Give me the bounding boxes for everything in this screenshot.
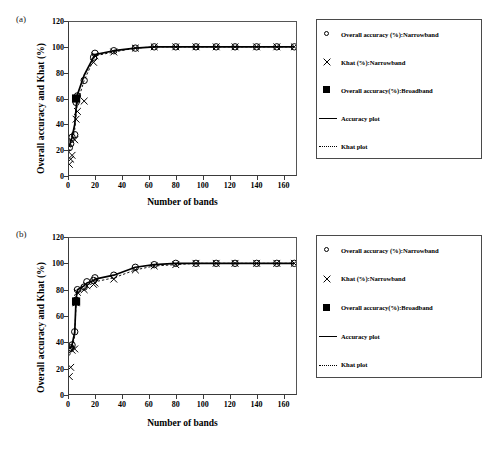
panel-a-y-tick: 60 [36, 94, 64, 103]
panel-a-legend-label: Khat plot [341, 143, 367, 150]
panel-b-x-tick: 40 [109, 400, 135, 409]
y-axis-label-b: Overall accuracy and Khat (%) [36, 262, 46, 393]
panel-a-x-tick-mark [284, 176, 285, 180]
cross-icon [323, 275, 331, 283]
panel-a-x-tick-mark [257, 176, 258, 180]
panel-b-x-tick: 20 [82, 400, 108, 409]
panel-a-x-tick-mark [149, 176, 150, 180]
dotted-line-icon [319, 365, 337, 366]
dotted-line-icon [319, 146, 337, 147]
panel-b-x-tick-mark [176, 395, 177, 399]
legend-key-filled-square [317, 81, 341, 99]
panel-b-x-tick-mark [95, 395, 96, 399]
panel-b-x-tick-mark [149, 395, 150, 399]
legend-key-open-circle [317, 241, 341, 259]
chart-panel-a: (a) Overall accuracy and Khat (%) 020406… [0, 0, 491, 228]
panel-a-x-tick-mark [68, 176, 69, 180]
plot-area-a [68, 21, 297, 176]
panel-b-legend-item[interactable]: Overall accuracy(%):Broadband [317, 299, 481, 317]
panel-a-legend-label: Accuracy plot [341, 115, 380, 122]
filled-square-icon [323, 86, 330, 93]
panel-b-x-tick-mark [68, 395, 69, 399]
panel-a-legend-item[interactable]: Khat plot [317, 137, 481, 155]
panel-a-legend-item[interactable]: Overall accuracy (%):Narrowband [317, 25, 481, 43]
panel-label-a: (a) [16, 14, 26, 24]
legend-key-filled-square [317, 299, 341, 317]
panel-b-x-tick-mark [122, 395, 123, 399]
solid-line-icon [319, 118, 337, 120]
panel-b-y-tick: 60 [36, 312, 64, 321]
x-axis-label-a: Number of bands [68, 197, 297, 207]
panel-b-x-tick: 120 [217, 400, 243, 409]
panel-b-x-tick: 140 [244, 400, 270, 409]
legend-key-dotted-line [317, 356, 341, 374]
panel-a-x-tick-mark [203, 176, 204, 180]
plot-area-b [68, 237, 297, 395]
plot-frame-a [68, 21, 297, 176]
filled-square-icon [323, 304, 330, 311]
panel-a-x-tick: 100 [190, 181, 216, 190]
panel-a-legend-label: Overall accuracy (%):Narrowband [341, 31, 439, 38]
panel-a-x-tick-mark [230, 176, 231, 180]
legend-key-dotted-line [317, 137, 341, 155]
panel-b-y-tick: 20 [36, 364, 64, 373]
panel-b-legend-item[interactable]: Khat plot [317, 356, 481, 374]
panel-a-y-tick: 100 [36, 42, 64, 51]
figure-container: (a) Overall accuracy and Khat (%) 020406… [0, 0, 491, 456]
panel-b-legend-label: Khat plot [341, 361, 367, 368]
panel-a-y-tick: 120 [36, 17, 64, 26]
panel-b-legend-label: Overall accuracy(%):Broadband [341, 304, 433, 311]
panel-b-legend-item[interactable]: Khat (%):Narrowband [317, 270, 481, 288]
panel-a-x-tick: 140 [244, 181, 270, 190]
panel-b-x-tick-mark [203, 395, 204, 399]
plot-frame-b [68, 237, 297, 395]
panel-a-x-tick: 160 [271, 181, 297, 190]
legend-key-cross [317, 270, 341, 288]
panel-b-y-tick: 120 [36, 233, 64, 242]
panel-a-legend-item[interactable]: Accuracy plot [317, 109, 481, 127]
panel-b-x-tick: 160 [271, 400, 297, 409]
panel-a-x-tick: 0 [55, 181, 81, 190]
panel-b-legend-label: Accuracy plot [341, 333, 380, 340]
panel-b-x-tick: 100 [190, 400, 216, 409]
panel-b-y-tick: 0 [36, 391, 64, 400]
panel-b-x-tick: 0 [55, 400, 81, 409]
panel-a-y-tick: 0 [36, 172, 64, 181]
x-axis-label-b: Number of bands [68, 418, 297, 428]
panel-b-y-tick: 100 [36, 259, 64, 268]
legend-key-solid-line [317, 109, 341, 127]
solid-line-icon [319, 336, 337, 338]
panel-a-y-tick: 20 [36, 146, 64, 155]
panel-a-x-tick: 80 [163, 181, 189, 190]
panel-b-y-tick: 80 [36, 285, 64, 294]
panel-a-x-tick: 120 [217, 181, 243, 190]
panel-b-x-tick-mark [257, 395, 258, 399]
legend-b: Overall accuracy (%):NarrowbandKhat (%):… [316, 235, 482, 378]
panel-a-x-tick-mark [176, 176, 177, 180]
panel-label-b: (b) [16, 229, 27, 239]
panel-a-legend-item[interactable]: Overall accuracy(%):Broadband [317, 81, 481, 99]
panel-b-legend-label: Khat (%):Narrowband [341, 275, 405, 282]
panel-a-x-tick: 40 [109, 181, 135, 190]
panel-a-legend-item[interactable]: Khat (%):Narrowband [317, 53, 481, 71]
chart-panel-b: (b) Overall accuracy and Khat (%) 020406… [0, 215, 491, 443]
panel-b-legend-item[interactable]: Overall accuracy (%):Narrowband [317, 241, 481, 259]
panel-b-legend-item[interactable]: Accuracy plot [317, 327, 481, 345]
panel-b-x-tick-mark [230, 395, 231, 399]
panel-b-legend-label: Overall accuracy (%):Narrowband [341, 247, 439, 254]
panel-b-x-tick-mark [284, 395, 285, 399]
panel-a-legend-label: Overall accuracy(%):Broadband [341, 87, 433, 94]
cross-icon [323, 58, 331, 66]
panel-a-x-tick: 60 [136, 181, 162, 190]
legend-key-open-circle [317, 25, 341, 43]
panel-a-x-tick-mark [122, 176, 123, 180]
panel-a-x-tick-mark [95, 176, 96, 180]
panel-b-x-tick: 80 [163, 400, 189, 409]
panel-b-y-tick: 40 [36, 338, 64, 347]
open-circle-icon [324, 247, 329, 252]
panel-a-x-tick: 20 [82, 181, 108, 190]
panel-a-y-tick: 40 [36, 120, 64, 129]
panel-a-legend-label: Khat (%):Narrowband [341, 59, 405, 66]
open-circle-icon [324, 31, 329, 36]
legend-a: Overall accuracy (%):NarrowbandKhat (%):… [316, 19, 482, 159]
